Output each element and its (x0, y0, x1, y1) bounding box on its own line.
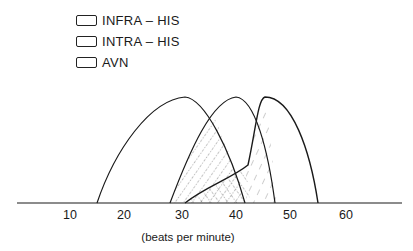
x-axis-label: (beats per minute) (141, 231, 234, 243)
tick-label: 30 (175, 208, 189, 222)
tick-label: 50 (283, 208, 297, 222)
tick-label: 40 (229, 208, 243, 222)
intra-his-hatch (170, 112, 250, 203)
tick-label: 20 (117, 208, 131, 222)
tick-label: 60 (339, 208, 353, 222)
tick-label: 10 (63, 208, 77, 222)
